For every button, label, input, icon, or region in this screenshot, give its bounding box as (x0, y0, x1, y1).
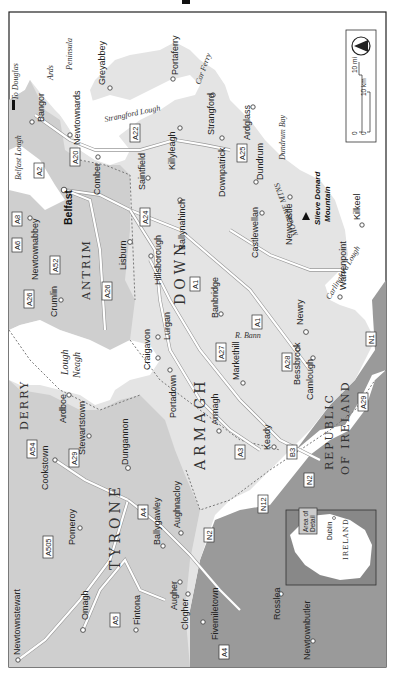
svg-text:N2: N2 (205, 530, 214, 540)
town-dungannon: Dungannon (120, 418, 130, 465)
svg-text:A22: A22 (131, 127, 140, 140)
town-banbridge: Banbridge (210, 277, 220, 318)
town-cookstown: Cookstown (40, 445, 50, 490)
town-bessbrook: Bessbrook (292, 342, 302, 385)
svg-text:N12: N12 (259, 497, 268, 511)
svg-text:A54: A54 (28, 443, 37, 456)
town-fivemiletown: Fivemiletown (210, 587, 220, 640)
town-dot-castlewellan (260, 211, 264, 215)
town-ardboe: Ardboe (58, 394, 68, 423)
town-dot-aughnacloy (179, 531, 183, 535)
town-dot-newcastle (288, 195, 292, 199)
town-ballygawley: Ballygawley (152, 497, 162, 545)
svg-text:A1: A1 (253, 318, 262, 327)
town-augher: Augher (169, 581, 179, 610)
peninsula-label: Peninsula (65, 38, 74, 71)
inset-dublin-label: Dublin (326, 521, 333, 540)
town-belfast: Belfast (62, 189, 74, 225)
town-lisburn: Lisburn (118, 240, 128, 270)
town-clogher: Clogher (180, 598, 190, 630)
town-dundrum: Dundrum (255, 143, 265, 180)
svg-text:A505: A505 (44, 538, 53, 556)
town-dot-stewartstown (87, 434, 91, 438)
town-bangor: Bangor (36, 93, 46, 122)
town-aughnacloy: Aughnacloy (172, 480, 182, 528)
town-stewartstown: Stewartstown (77, 401, 87, 455)
mountain-label: Mountain (323, 186, 332, 222)
town-dot-markethill (241, 381, 245, 385)
svg-text:A28: A28 (283, 356, 292, 369)
town-dot-portadown (168, 368, 172, 372)
ards-label: Ards (46, 65, 55, 81)
town-dot-armagh (217, 429, 221, 433)
svg-text:A6: A6 (13, 241, 22, 250)
town-dot-kilkeel (360, 223, 364, 227)
northern-ireland-map: DOWN ARMAGH ANTRIM TYRONE DERRY REPUBLIC… (0, 0, 399, 673)
town-dot-killyleagh (178, 126, 182, 130)
county-label-tyrone: TYRONE (107, 483, 123, 570)
lough-neagh-label-1: Lough (59, 349, 70, 376)
town-dot-fintona (134, 628, 138, 632)
town-craigavon: Craigavon (142, 329, 152, 370)
town-pomeroy: Pomeroy (67, 508, 77, 545)
town-newtownbutler: Newtownbutler (302, 600, 312, 660)
town-rosslea: Rosslea (272, 587, 282, 620)
town-dot-keady (272, 445, 276, 449)
town-newcastle: Newcastle (284, 203, 294, 245)
town-keady: Keady (262, 424, 272, 450)
svg-text:A4: A4 (139, 508, 148, 517)
town-dot-crumlin (59, 298, 63, 302)
town-crumlin: Crumlin (49, 286, 59, 317)
town-markethill: Markethill (231, 341, 241, 380)
town-portaferry: Portaferry (170, 35, 180, 75)
svg-text:B3: B3 (288, 448, 297, 457)
svg-text:A2: A2 (35, 167, 44, 176)
svg-text:A24: A24 (141, 211, 150, 224)
svg-text:A52: A52 (51, 259, 60, 272)
svg-text:N1: N1 (367, 334, 376, 344)
svg-text:A5: A5 (111, 616, 120, 625)
town-dot-newry (304, 330, 309, 335)
town-warrenpoint: Warrenpoint (338, 241, 348, 290)
svg-text:N2: N2 (305, 475, 314, 485)
town-dot-omagh (81, 628, 86, 633)
town-camlough: Camlough (305, 359, 315, 400)
town-dot-portaferry (171, 77, 175, 81)
county-label-armagh: ARMAGH (192, 378, 208, 472)
svg-text:A1: A1 (191, 280, 200, 289)
town-dot-lurgan (156, 335, 160, 339)
town-killyleagh: Killyleagh (167, 131, 177, 170)
town-dot-downpatrick (220, 136, 224, 140)
town-newtownards: Newtownards (72, 90, 82, 145)
inset-ireland-label: IRELAND (342, 518, 350, 560)
town-dot-fivemiletown (201, 620, 205, 624)
ferry-icon (12, 100, 15, 110)
belfast-lough-label: Belfast Lough (14, 135, 23, 180)
town-dot-dungannon (126, 466, 131, 471)
town-ardglass: Ardglass (242, 104, 252, 140)
town-dot-comber (96, 155, 100, 159)
slieve-donard-label: Slieve Donard (313, 171, 322, 225)
town-omagh: Omagh (80, 590, 90, 620)
town-kilkeel: Kilkeel (352, 193, 362, 220)
town-dot-pomeroy (78, 526, 82, 530)
town-dot-newtownstewart (16, 658, 20, 662)
town-dot-greyabbey (108, 86, 112, 90)
town-dot-bangor (30, 120, 34, 124)
inset-dublin-dot (333, 517, 336, 520)
town-saintfield: Saintfield (137, 153, 147, 190)
svg-text:A27: A27 (217, 346, 226, 359)
country-label-roi-line2: OF IRELAND (339, 381, 352, 476)
town-ballynahinch: Ballynahinch (177, 199, 187, 250)
town-fintona: Fintona (132, 595, 142, 625)
county-label-antrim: ANTRIM (80, 239, 93, 301)
town-armagh: Armagh (210, 393, 220, 425)
town-hillsborough: Hillsborough (153, 235, 163, 285)
town-dot-clogher (186, 592, 190, 596)
svg-text:A26: A26 (103, 285, 112, 298)
town-newry: Newry (295, 299, 305, 325)
scale-label-0-mi: 0 (351, 131, 358, 135)
scale-label-0-km: 0 (360, 131, 367, 135)
svg-text:A4: A4 (220, 648, 229, 657)
svg-text:A3: A3 (236, 448, 245, 457)
